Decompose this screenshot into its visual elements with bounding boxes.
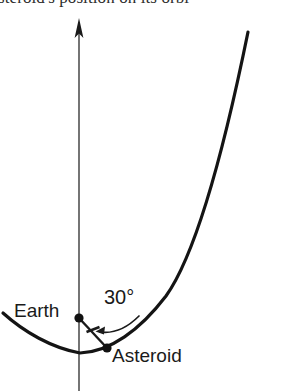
angle-label: 30° <box>104 287 134 307</box>
orbit-diagram-canvas <box>0 0 281 391</box>
asteroid-dot-marker <box>102 343 111 352</box>
earth-dot-marker <box>74 313 83 322</box>
orbit-diagram-figure: steroid's position on its orbi Earth 30°… <box>0 0 281 391</box>
asteroid-label: Asteroid <box>112 346 182 365</box>
earth-label: Earth <box>14 301 59 320</box>
vertical-axis <box>75 18 84 391</box>
